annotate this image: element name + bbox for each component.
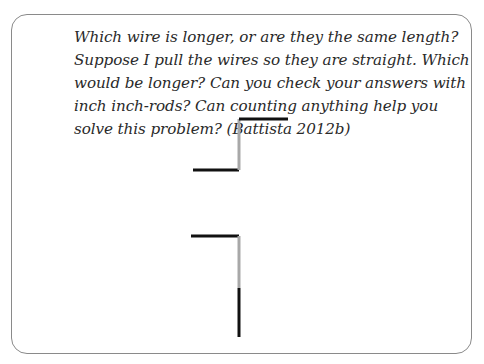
wire-2 [191, 236, 239, 337]
wire-1 [193, 119, 288, 170]
wires-figure [0, 0, 484, 364]
